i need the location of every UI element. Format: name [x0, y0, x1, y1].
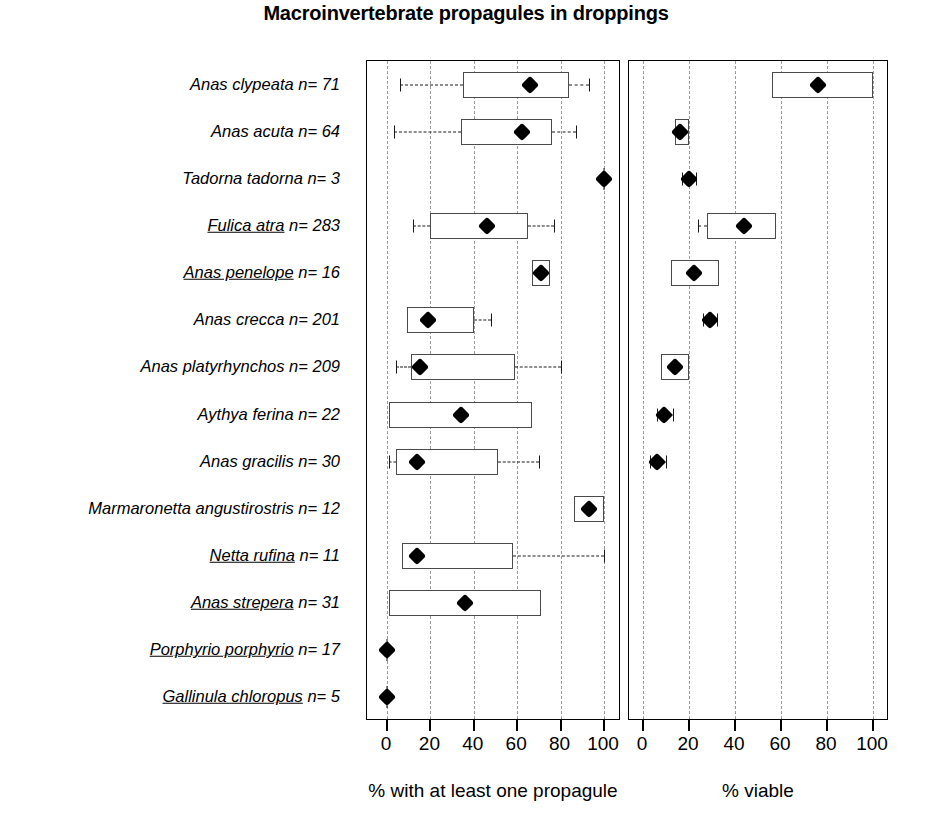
plot-row: [629, 344, 887, 391]
whisker-cap-high: [554, 219, 555, 232]
sample-size: n= 64: [294, 121, 340, 139]
whisker-cap-high: [589, 78, 590, 91]
plot-row: [629, 580, 887, 627]
whisker-cap-low: [396, 361, 397, 374]
panel-viable-plot: [628, 60, 888, 720]
species-name: Anas acuta: [211, 121, 294, 139]
species-name: Anas crecca: [194, 310, 285, 328]
plot-row: [629, 155, 887, 202]
species-label: Tadorna tadorna n= 3: [182, 170, 340, 187]
whisker-cap-high: [673, 408, 674, 421]
axis-tick-label: 100: [587, 733, 619, 755]
plot-row: [367, 61, 619, 108]
x-axis-propagule: 020406080100: [366, 720, 620, 746]
plot-row: [367, 627, 619, 674]
whisker-cap-high: [539, 455, 540, 468]
species-label-column: Anas clypeata n= 71Anas acuta n= 64Tador…: [0, 60, 352, 720]
axis-tick-label: 40: [462, 733, 483, 755]
whisker-low: [698, 225, 707, 226]
species-name: Fulica atra: [207, 216, 284, 234]
axis-tick: [386, 720, 388, 731]
plot-row: [367, 532, 619, 579]
species-name: Anas penelope: [184, 263, 294, 281]
plot-row: [629, 438, 887, 485]
species-label: Aythya ferina n= 22: [198, 405, 341, 422]
plot-row: [629, 297, 887, 344]
plot-row: [629, 627, 887, 674]
axis-tick: [560, 720, 562, 731]
species-label: Porphyrio porphyrio n= 17: [150, 641, 340, 658]
plot-row: [367, 344, 619, 391]
species-name: Marmaronetta angustirostris: [88, 499, 293, 517]
chart-figure: Macroinvertebrate propagules in dropping…: [0, 0, 932, 840]
axis-tick: [603, 720, 605, 731]
species-label: Anas clypeata n= 71: [190, 75, 340, 92]
plot-row: [367, 391, 619, 438]
species-name: Aythya ferina: [198, 404, 294, 422]
plot-row: [367, 250, 619, 297]
species-label: Anas crecca n= 201: [194, 311, 340, 328]
plot-row: [367, 297, 619, 344]
chart-title: Macroinvertebrate propagules in dropping…: [0, 2, 932, 25]
species-label: Anas gracilis n= 30: [200, 452, 340, 469]
sample-size: n= 31: [294, 593, 340, 611]
plot-row: [367, 580, 619, 627]
axis-tick-label: 20: [419, 733, 440, 755]
plot-row: [629, 391, 887, 438]
species-label: Fulica atra n= 283: [207, 217, 340, 234]
species-name: Gallinula chloropus: [162, 687, 302, 705]
plot-row: [629, 485, 887, 532]
sample-size: n= 3: [303, 169, 340, 187]
species-name: Anas platyrhynchos: [140, 357, 284, 375]
plot-row: [629, 202, 887, 249]
sample-size: n= 22: [294, 404, 340, 422]
whisker-cap-low: [400, 78, 401, 91]
box: [407, 307, 474, 333]
x-axis-title-propagule: % with at least one propagule: [286, 780, 700, 802]
species-label: Anas acuta n= 64: [211, 122, 340, 139]
species-label: Anas strepera n= 31: [191, 594, 340, 611]
species-label: Anas penelope n= 16: [184, 264, 340, 281]
plot-row: [629, 61, 887, 108]
whisker-cap-low: [389, 455, 390, 468]
axis-tick: [516, 720, 518, 731]
sample-size: n= 17: [294, 640, 340, 658]
whisker-cap-low: [394, 125, 395, 138]
axis-tick-label: 80: [549, 733, 570, 755]
sample-size: n= 201: [284, 310, 340, 328]
species-name: Anas clypeata: [190, 74, 294, 92]
whisker-low: [396, 367, 411, 368]
sample-size: n= 11: [295, 546, 340, 564]
axis-tick-label: 0: [381, 733, 392, 755]
axis-tick: [734, 720, 736, 731]
whisker-high: [552, 131, 576, 132]
panel-propagule-plot: [366, 60, 620, 720]
species-label: Anas platyrhynchos n= 209: [140, 358, 340, 375]
plot-row: [367, 108, 619, 155]
box: [463, 72, 569, 98]
plot-row: [629, 674, 887, 721]
sample-size: n= 30: [294, 451, 340, 469]
axis-tick-label: 100: [856, 733, 888, 755]
whisker-cap-low: [413, 219, 414, 232]
axis-tick-label: 80: [815, 733, 836, 755]
plot-row: [367, 155, 619, 202]
whisker-high: [515, 367, 561, 368]
axis-tick-label: 0: [637, 733, 648, 755]
median-marker: [378, 688, 396, 706]
plot-row: [629, 532, 887, 579]
plot-row: [367, 485, 619, 532]
species-name: Netta rufina: [210, 546, 295, 564]
plot-row: [367, 674, 619, 721]
sample-size: n= 16: [294, 263, 340, 281]
whisker-cap-high: [666, 455, 667, 468]
sample-size: n= 283: [284, 216, 340, 234]
sample-size: n= 71: [294, 74, 340, 92]
axis-tick: [872, 720, 874, 731]
whisker-high: [569, 84, 589, 85]
axis-tick-label: 20: [677, 733, 698, 755]
sample-size: n= 209: [284, 357, 340, 375]
whisker-low: [413, 225, 430, 226]
species-name: Anas strepera: [191, 593, 294, 611]
x-axis-title-viable: % viable: [648, 780, 868, 802]
